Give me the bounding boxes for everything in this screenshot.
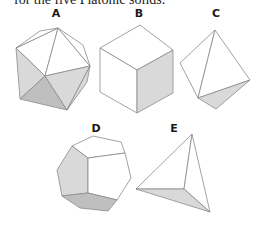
tetrahedron-drawing xyxy=(136,134,210,212)
dodecahedron-drawing xyxy=(57,136,131,211)
platonic-solids-figure xyxy=(0,0,266,226)
octahedron-drawing xyxy=(180,30,250,109)
cube-drawing xyxy=(100,25,173,113)
icosahedron-drawing xyxy=(16,28,90,110)
